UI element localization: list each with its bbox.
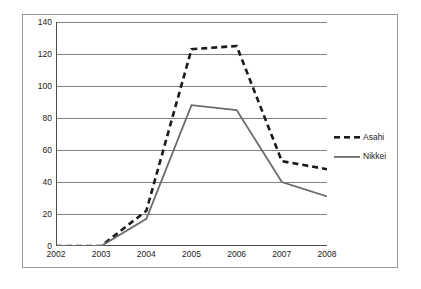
x-axis-tick-labels: 2002200320042005200620072008	[56, 250, 327, 266]
legend-swatch-solid-icon	[334, 152, 360, 162]
legend-label-nikkei: Nikkei	[363, 152, 386, 161]
y-axis-tick-label: 120	[22, 50, 52, 59]
series-line-asahi	[56, 46, 327, 246]
y-axis-tick-label: 140	[22, 18, 52, 27]
y-axis-tick-label: 40	[22, 178, 52, 187]
x-axis-tick-label: 2003	[81, 250, 121, 259]
chart-legend: Asahi Nikkei	[334, 128, 396, 166]
chart-plot-svg	[56, 22, 327, 246]
legend-swatch-dashed-icon	[334, 133, 360, 143]
legend-item-asahi: Asahi	[334, 128, 396, 147]
series-lines-group	[56, 46, 327, 246]
axes-group	[56, 22, 327, 246]
plot-area	[56, 22, 327, 246]
y-axis-tick-label: 80	[22, 114, 52, 123]
x-axis-tick-label: 2004	[126, 250, 166, 259]
x-axis-tick-label: 2005	[172, 250, 212, 259]
y-axis-tick-labels: 020406080100120140	[20, 22, 52, 246]
x-axis-tick-label: 2006	[217, 250, 257, 259]
legend-label-asahi: Asahi	[363, 133, 384, 142]
y-axis-tick-label: 60	[22, 146, 52, 155]
gridlines-group	[56, 22, 327, 214]
chart-figure: 020406080100120140 200220032004200520062…	[0, 0, 421, 289]
y-axis-tick-label: 20	[22, 210, 52, 219]
legend-item-nikkei: Nikkei	[334, 147, 396, 166]
series-line-nikkei	[56, 105, 327, 246]
y-axis-tick-label: 100	[22, 82, 52, 91]
x-axis-tick-label: 2007	[262, 250, 302, 259]
x-axis-tick-label: 2008	[307, 250, 347, 259]
x-axis-tick-label: 2002	[36, 250, 76, 259]
